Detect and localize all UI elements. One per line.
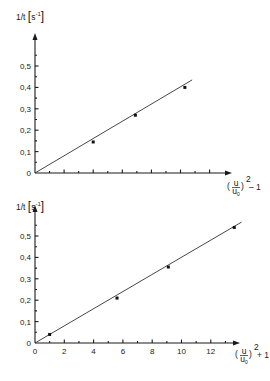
x-tick-label: 4 bbox=[91, 347, 96, 356]
y-tick-label: 0 bbox=[27, 339, 32, 348]
data-point bbox=[183, 86, 186, 89]
y-tick-label: 0,3 bbox=[20, 275, 32, 284]
fit-line bbox=[35, 222, 242, 343]
data-point bbox=[167, 266, 170, 269]
x-axis-title: (uu0)2– 1 bbox=[227, 174, 261, 197]
chart-canvas: 00,10,20,30,40,51/t [s-1](uu0)2– 1 00,10… bbox=[0, 0, 270, 381]
x-axis-arrow-icon bbox=[233, 341, 240, 346]
y-axis-title: 1/t [s-1] bbox=[16, 9, 44, 23]
data-point bbox=[116, 297, 119, 300]
top-plot: 00,10,20,30,40,51/t [s-1](uu0)2– 1 bbox=[16, 9, 261, 197]
svg-text:+ 1: + 1 bbox=[257, 350, 269, 360]
x-axis-arrow-icon bbox=[225, 171, 232, 176]
y-tick-label: 0,4 bbox=[20, 253, 32, 262]
y-tick-label: 0,2 bbox=[20, 296, 32, 305]
svg-text:): ) bbox=[241, 181, 244, 191]
x-tick-label: 10 bbox=[177, 347, 186, 356]
y-tick-label: 0,5 bbox=[20, 62, 32, 71]
data-point bbox=[92, 140, 95, 143]
x-tick-label: 8 bbox=[150, 347, 155, 356]
y-tick-label: 0,4 bbox=[20, 83, 32, 92]
x-tick-label: 2 bbox=[62, 347, 67, 356]
y-axis-title: 1/t [s-1] bbox=[16, 199, 44, 213]
y-tick-label: 0,2 bbox=[20, 126, 32, 135]
x-tick-label: 0 bbox=[33, 347, 38, 356]
y-tick-label: 0 bbox=[27, 169, 32, 178]
data-point bbox=[134, 114, 137, 117]
y-tick-label: 0,5 bbox=[20, 232, 32, 241]
svg-text:– 1: – 1 bbox=[249, 182, 261, 192]
svg-text:(: ( bbox=[227, 181, 230, 191]
svg-text:(: ( bbox=[235, 349, 238, 359]
y-tick-label: 0,1 bbox=[20, 148, 32, 157]
y-tick-label: 0,1 bbox=[20, 318, 32, 327]
svg-text:): ) bbox=[249, 349, 252, 359]
data-point bbox=[48, 333, 51, 336]
y-axis-arrow-icon bbox=[33, 33, 38, 40]
x-axis-title: (uu0)2+ 1 bbox=[235, 342, 269, 365]
y-tick-label: 0,3 bbox=[20, 105, 32, 114]
fit-line bbox=[35, 80, 192, 173]
x-tick-label: 6 bbox=[121, 347, 126, 356]
data-point bbox=[233, 226, 236, 229]
x-tick-label: 12 bbox=[206, 347, 215, 356]
bottom-plot: 00,10,20,30,40,50246810121/t [s-1](uu0)2… bbox=[16, 199, 269, 365]
